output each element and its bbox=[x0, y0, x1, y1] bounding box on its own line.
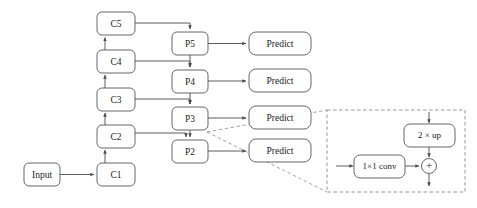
node-predict3[interactable]: Predict bbox=[249, 106, 311, 129]
node-upsample[interactable]: 2 × up bbox=[404, 124, 455, 147]
node-input[interactable]: Input bbox=[24, 163, 60, 186]
node-p3[interactable]: P3 bbox=[172, 107, 208, 130]
predict4-label: Predict bbox=[267, 76, 294, 86]
predict3-label: Predict bbox=[267, 113, 294, 123]
node-p4[interactable]: P4 bbox=[172, 70, 208, 93]
node-add[interactable]: + bbox=[422, 159, 437, 174]
node-p5[interactable]: P5 bbox=[172, 32, 208, 55]
node-predict5[interactable]: Predict bbox=[249, 32, 311, 55]
c4-label: C4 bbox=[110, 57, 121, 67]
node-predict4[interactable]: Predict bbox=[249, 69, 311, 92]
diagram-canvas: Input C5 C4 C3 C2 C1 P5 P4 bbox=[0, 0, 477, 208]
upsample-label: 2 × up bbox=[418, 130, 442, 140]
conv-label: 1×1 conv bbox=[363, 161, 397, 171]
predict-edges bbox=[208, 44, 246, 152]
node-conv[interactable]: 1×1 conv bbox=[354, 155, 405, 178]
add-label: + bbox=[426, 159, 432, 171]
node-p2[interactable]: P2 bbox=[172, 140, 208, 163]
node-c3[interactable]: C3 bbox=[97, 88, 135, 111]
node-predict2[interactable]: Predict bbox=[249, 139, 311, 162]
p4-label: P4 bbox=[185, 77, 195, 87]
edge-c2-to-p2 bbox=[135, 133, 186, 137]
predict2-label: Predict bbox=[267, 146, 294, 156]
c1-label: C1 bbox=[110, 170, 121, 180]
c2-label: C2 bbox=[110, 132, 121, 142]
p2-label: P2 bbox=[185, 147, 195, 157]
node-c4[interactable]: C4 bbox=[97, 50, 135, 73]
predict5-label: Predict bbox=[267, 39, 294, 49]
p5-label: P5 bbox=[185, 39, 195, 49]
inset-frame bbox=[327, 110, 465, 192]
c3-label: C3 bbox=[110, 95, 121, 105]
fpn-diagram: Input C5 C4 C3 C2 C1 P5 P4 bbox=[0, 0, 477, 208]
input-label: Input bbox=[32, 170, 52, 180]
edge-c3-to-p3 bbox=[135, 99, 190, 104]
edge-c4-to-p4 bbox=[135, 61, 190, 67]
c5-label: C5 bbox=[110, 19, 121, 29]
p3-label: P3 bbox=[185, 114, 195, 124]
node-c1[interactable]: C1 bbox=[97, 163, 135, 186]
node-c5[interactable]: C5 bbox=[97, 12, 135, 35]
edge-c5-to-p5 bbox=[135, 23, 190, 29]
node-c2[interactable]: C2 bbox=[97, 125, 135, 148]
